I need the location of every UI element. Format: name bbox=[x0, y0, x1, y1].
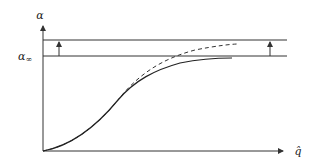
x-axis-label: q̂ bbox=[294, 145, 301, 158]
solid-curve bbox=[43, 58, 232, 151]
y-axis-label: α bbox=[36, 9, 44, 22]
asymptote-label: α∞ bbox=[18, 50, 32, 64]
diagram-canvas: α α∞ q̂ bbox=[0, 0, 312, 166]
dashed-curve bbox=[43, 44, 238, 151]
